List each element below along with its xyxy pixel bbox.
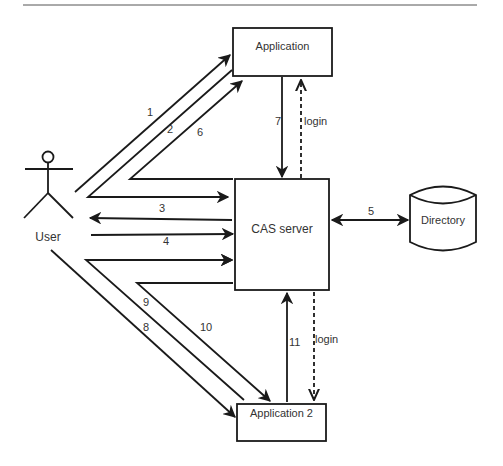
edge-label-4: 4: [163, 236, 169, 247]
edge-label-7: 7: [275, 116, 281, 127]
edge-2: [88, 70, 232, 197]
edge-8: [51, 250, 235, 417]
edge-1: [75, 55, 230, 192]
edge-4: [91, 234, 233, 235]
application2-label: Application 2: [237, 408, 326, 419]
edge-label-9: 9: [143, 297, 149, 308]
user-actor-icon: [24, 152, 73, 219]
edge-3: [90, 218, 232, 220]
edge-label-login-1: login: [304, 116, 327, 127]
application-box: [233, 28, 332, 76]
cas-server-label: CAS server: [235, 223, 329, 235]
edge-label-3: 3: [159, 203, 165, 214]
edge-9: [86, 260, 244, 400]
edge-label-1: 1: [147, 107, 153, 118]
edge-label-login-2: login: [315, 334, 338, 345]
edge-label-10: 10: [200, 322, 212, 333]
edge-6: [130, 81, 242, 179]
edge-label-5: 5: [368, 206, 374, 217]
edge-10: [137, 283, 270, 401]
edge-label-8: 8: [143, 322, 149, 333]
directory-label: Directory: [410, 215, 476, 226]
application-label: Application: [233, 41, 332, 52]
edge-label-11: 11: [289, 337, 300, 348]
edge-label-6: 6: [197, 127, 203, 138]
user-label: User: [20, 231, 76, 243]
edge-label-2: 2: [167, 124, 173, 135]
